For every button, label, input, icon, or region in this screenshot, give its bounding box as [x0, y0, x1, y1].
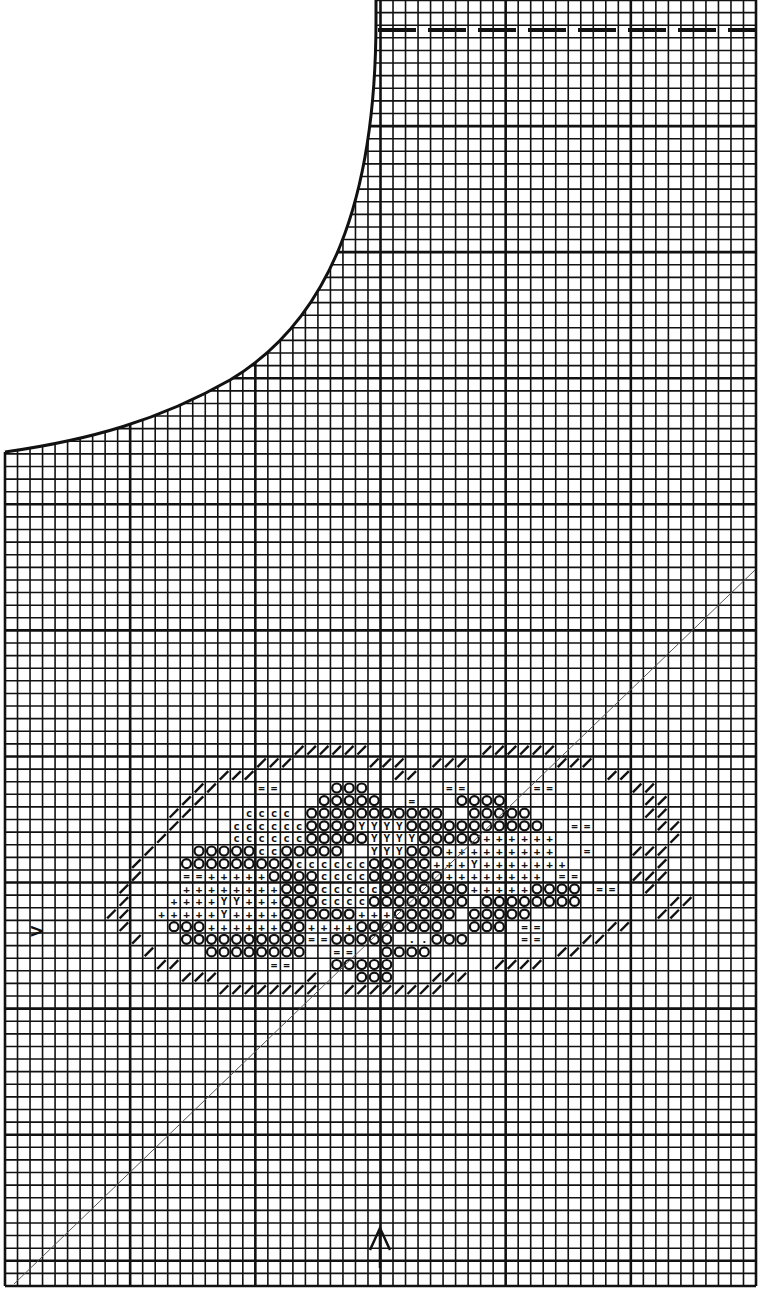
- stitch-double-bar: =: [521, 933, 528, 946]
- stitch-c: c: [358, 858, 365, 871]
- stitch-cross: +: [308, 921, 315, 934]
- stitch-circle: [532, 884, 541, 893]
- stitch-half: [658, 796, 667, 805]
- stitch-c: c: [333, 883, 340, 896]
- stitch-y: Y: [383, 820, 390, 833]
- stitch-double-bar: =: [308, 933, 315, 946]
- stitch-circle: [332, 809, 341, 818]
- stitch-cross: +: [208, 883, 215, 896]
- stitch-c: c: [271, 832, 278, 845]
- stitch-cross: +: [246, 883, 253, 896]
- stitch-cross: +: [271, 895, 278, 908]
- stitch-circle: [432, 809, 441, 818]
- stitch-circle: [332, 910, 341, 919]
- stitch-circle: [432, 910, 441, 919]
- stitch-half: [645, 784, 654, 793]
- stitch-circle: [507, 809, 516, 818]
- stitch-circle: [307, 834, 316, 843]
- stitch-circle: [207, 947, 216, 956]
- stitch-circle: [232, 947, 241, 956]
- stitch-circle: [307, 847, 316, 856]
- stitch-circle: [282, 897, 291, 906]
- stitch-circle: [407, 872, 416, 881]
- stitch-circle: [295, 872, 304, 881]
- stitch-cross: +: [509, 832, 516, 845]
- stitch-circle: [357, 922, 366, 931]
- stitch-c: c: [258, 845, 265, 858]
- stitch-circle: [382, 809, 391, 818]
- stitch-c: c: [258, 832, 265, 845]
- stitch-half: [558, 948, 567, 957]
- stitch-circle: [570, 897, 579, 906]
- stitch-circle: [457, 935, 466, 944]
- stitch-c: c: [271, 820, 278, 833]
- stitch-double-bar: =: [283, 959, 290, 972]
- stitch-circle: [520, 809, 529, 818]
- stitch-half: [645, 885, 654, 894]
- stitch-circle: [195, 859, 204, 868]
- stitch-half: [207, 973, 216, 982]
- stitch-double-bar: =: [559, 870, 566, 883]
- stitch-y: Y: [396, 832, 403, 845]
- stitch-half: [132, 872, 141, 881]
- stitch-cross: +: [446, 845, 453, 858]
- stitch-cross: +: [246, 870, 253, 883]
- stitch-cross: +: [484, 883, 491, 896]
- stitch-circle: [370, 859, 379, 868]
- stitch-double-bar: =: [183, 870, 190, 883]
- stitch-circle: [282, 922, 291, 931]
- stitch-circle: [195, 935, 204, 944]
- stitch-half: [145, 948, 154, 957]
- stitch-double-bar: =: [446, 782, 453, 795]
- stitch-half: [107, 910, 116, 919]
- stitch-cross: +: [258, 870, 265, 883]
- stitch-circle: [295, 897, 304, 906]
- stitch-circle: [320, 834, 329, 843]
- stitch-cross: +: [271, 921, 278, 934]
- stitch-half: [508, 746, 517, 755]
- stitch-half: [232, 771, 241, 780]
- stitch-circle: [495, 897, 504, 906]
- stitch-c: c: [283, 832, 290, 845]
- stitch-circle: [282, 947, 291, 956]
- stitch-cross: +: [459, 870, 466, 883]
- stitch-half: [633, 847, 642, 856]
- stitch-circle: [382, 922, 391, 931]
- stitch-double-bar: =: [571, 870, 578, 883]
- stitch-circle: [420, 821, 429, 830]
- stitch-circle: [407, 809, 416, 818]
- stitch-cross: +: [258, 908, 265, 921]
- stitch-cross: +: [171, 908, 178, 921]
- stitch-circle: [182, 922, 191, 931]
- stitch-half: [408, 771, 417, 780]
- stitch-circle: [432, 884, 441, 893]
- stitch-double-bar: =: [609, 883, 616, 896]
- neckline-curve: [0, 0, 376, 452]
- stitch-circle: [470, 834, 479, 843]
- stitch-double-bar: =: [584, 820, 591, 833]
- stitch-circle: [370, 973, 379, 982]
- stitch-c: c: [296, 858, 303, 871]
- stitch-circle: [257, 947, 266, 956]
- stitch-circle: [457, 897, 466, 906]
- stitch-circle: [295, 947, 304, 956]
- stitch-y: Y: [221, 908, 228, 921]
- stitch-y: Y: [396, 820, 403, 833]
- stitch-half: [495, 746, 504, 755]
- stitch-circle: [445, 821, 454, 830]
- stitch-half: [295, 985, 304, 994]
- stitch-cross: +: [546, 832, 553, 845]
- stitch-c: c: [321, 883, 328, 896]
- stitch-c: c: [321, 858, 328, 871]
- stitch-circle: [482, 897, 491, 906]
- stitch-cross: +: [534, 845, 541, 858]
- stitch-half: [270, 758, 279, 767]
- stitch-circle: [270, 947, 279, 956]
- stitch-circle: [345, 809, 354, 818]
- stitch-circle: [470, 821, 479, 830]
- stitch-circle: [470, 809, 479, 818]
- stitch-cross: +: [221, 883, 228, 896]
- stitch-circle: [395, 922, 404, 931]
- stitch-circle: [532, 897, 541, 906]
- stitch-cross: +: [509, 870, 516, 883]
